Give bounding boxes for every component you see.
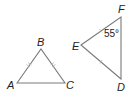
vertex-label-a: A [6, 79, 14, 91]
angle-label-f: 55° [104, 28, 119, 39]
vertex-label-b: B [37, 36, 44, 48]
vertex-label-e: E [72, 40, 80, 52]
vertex-label-c: C [66, 79, 74, 91]
diagram-canvas: A B C E F D 55° [0, 0, 133, 96]
vertex-label-d: D [117, 81, 125, 93]
vertex-label-f: F [118, 3, 126, 15]
triangle-def [81, 17, 121, 79]
triangle-abc [17, 49, 65, 83]
